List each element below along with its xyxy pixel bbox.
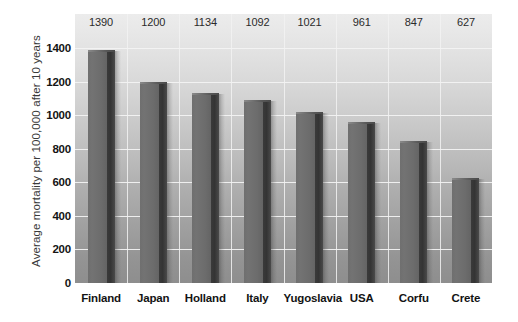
y-tick-label-1200: 1200 bbox=[0, 76, 71, 88]
gridline-x-2 bbox=[179, 14, 180, 283]
bar-corfu bbox=[400, 141, 427, 283]
plot-area: 13901200113410921021961847627 bbox=[75, 14, 492, 283]
bar-finland bbox=[88, 50, 115, 283]
x-axis-tick-labels: FinlandJapanHollandItalyYugoslaviaUSACor… bbox=[75, 292, 492, 312]
y-tick-label-400: 400 bbox=[0, 210, 71, 222]
data-label-usa: 961 bbox=[336, 16, 388, 28]
bar-top-face bbox=[88, 50, 115, 52]
bar-side-face bbox=[263, 102, 271, 283]
bar-front-face bbox=[296, 112, 315, 283]
bar-front-face bbox=[140, 82, 159, 283]
bar-shadow-glow bbox=[478, 179, 485, 283]
bar-side-face bbox=[471, 180, 479, 283]
bar-yugoslavia bbox=[296, 112, 323, 283]
bar-front-face bbox=[192, 93, 211, 283]
data-label-corfu: 847 bbox=[388, 16, 440, 28]
data-label-holland: 1134 bbox=[179, 16, 231, 28]
bar-side-face bbox=[159, 84, 167, 283]
gridline-x-3 bbox=[231, 14, 232, 283]
bar-top-face bbox=[244, 100, 271, 102]
bar-side-face bbox=[315, 114, 323, 283]
x-tick-label-finland: Finland bbox=[75, 292, 127, 304]
y-axis-tick-labels: 0200400600800100012001400 bbox=[0, 0, 71, 322]
data-label-band: 13901200113410921021961847627 bbox=[75, 14, 492, 48]
x-tick-label-yugoslavia: Yugoslavia bbox=[284, 292, 336, 304]
data-label-crete: 627 bbox=[440, 16, 492, 28]
bar-side-face bbox=[211, 95, 219, 283]
y-tick-label-0: 0 bbox=[0, 277, 71, 289]
x-tick-label-holland: Holland bbox=[179, 292, 231, 304]
bar-side-face bbox=[107, 52, 115, 283]
bar-shadow-glow bbox=[426, 142, 433, 283]
x-tick-label-italy: Italy bbox=[231, 292, 283, 304]
bar-holland bbox=[192, 93, 219, 283]
bar-top-face bbox=[452, 178, 479, 180]
gridline-x-6 bbox=[388, 14, 389, 283]
bar-top-face bbox=[140, 82, 167, 84]
bar-shadow-glow bbox=[322, 113, 329, 283]
bar-crete bbox=[452, 178, 479, 283]
bar-front-face bbox=[348, 122, 367, 283]
gridline-x-1 bbox=[127, 14, 128, 283]
y-tick-label-800: 800 bbox=[0, 143, 71, 155]
bar-top-face bbox=[348, 122, 375, 124]
gridline-x-7 bbox=[440, 14, 441, 283]
bar-top-face bbox=[192, 93, 219, 95]
x-tick-label-corfu: Corfu bbox=[388, 292, 440, 304]
gridline-x-5 bbox=[336, 14, 337, 283]
y-tick-label-1000: 1000 bbox=[0, 109, 71, 121]
bar-front-face bbox=[400, 141, 419, 283]
bar-shadow-glow bbox=[270, 101, 277, 283]
bar-japan bbox=[140, 82, 167, 283]
bar-front-face bbox=[244, 100, 263, 283]
data-label-finland: 1390 bbox=[75, 16, 127, 28]
bar-shadow-glow bbox=[218, 94, 225, 283]
bar-shadow-glow bbox=[374, 123, 381, 283]
bar-side-face bbox=[367, 124, 375, 283]
bar-top-face bbox=[296, 112, 323, 114]
data-label-japan: 1200 bbox=[127, 16, 179, 28]
y-tick-label-200: 200 bbox=[0, 243, 71, 255]
bar-top-face bbox=[400, 141, 427, 143]
bar-chart-figure: Average mortality per 100,000 after 10 y… bbox=[0, 0, 518, 322]
data-label-italy: 1092 bbox=[231, 16, 283, 28]
x-tick-label-usa: USA bbox=[336, 292, 388, 304]
data-label-yugoslavia: 1021 bbox=[284, 16, 336, 28]
x-tick-label-crete: Crete bbox=[440, 292, 492, 304]
bar-italy bbox=[244, 100, 271, 283]
bar-usa bbox=[348, 122, 375, 283]
bar-front-face bbox=[88, 50, 107, 283]
bar-side-face bbox=[419, 143, 427, 283]
x-tick-label-japan: Japan bbox=[127, 292, 179, 304]
y-tick-label-600: 600 bbox=[0, 176, 71, 188]
bar-front-face bbox=[452, 178, 471, 283]
gridline-x-4 bbox=[284, 14, 285, 283]
y-tick-label-1400: 1400 bbox=[0, 42, 71, 54]
